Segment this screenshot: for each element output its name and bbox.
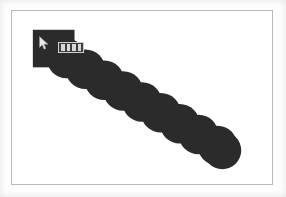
cursor-arrow-icon [39,36,50,50]
paint-layer[interactable] [12,11,272,184]
trail-end-dot [204,132,242,170]
toolbar-cell-0[interactable] [61,44,65,51]
drawing-canvas[interactable] [11,10,273,185]
screenshot-root [0,0,286,197]
toolbar-cell-1[interactable] [67,44,71,51]
floating-toolbar[interactable] [58,42,84,53]
toolbar-cell-3[interactable] [78,44,82,51]
brush-trail-graphic [12,11,272,184]
toolbar-cell-2[interactable] [72,44,76,51]
